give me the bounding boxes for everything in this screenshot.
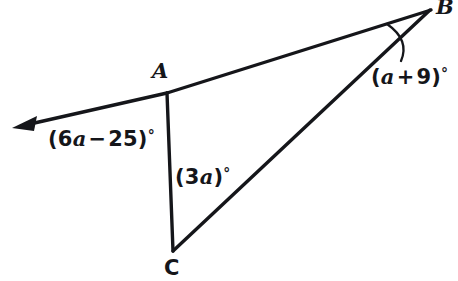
angle-b-variable: a bbox=[381, 64, 395, 89]
degree-symbol-icon: ° bbox=[441, 65, 448, 81]
degree-symbol-icon: ° bbox=[148, 127, 155, 143]
angle-a-variable: a bbox=[73, 126, 87, 151]
angle-label-at-A-interior: (3a)° bbox=[175, 166, 230, 188]
angle-a-coefficient: 6 bbox=[58, 127, 73, 151]
angle-a-constant: 25 bbox=[108, 127, 138, 151]
angle-a-open: ( bbox=[48, 127, 58, 151]
angle-label-at-B: (a+9)° bbox=[371, 66, 448, 88]
arrowhead-icon bbox=[12, 116, 37, 131]
segment-AC bbox=[167, 93, 173, 251]
angle-c-coefficient: 3 bbox=[185, 165, 200, 189]
angle-label-exterior-at-A: (6a−25)° bbox=[48, 128, 155, 150]
vertex-label-C: C bbox=[164, 258, 179, 279]
vertex-label-B: B bbox=[436, 0, 454, 17]
angle-a-operator: − bbox=[86, 127, 108, 151]
angle-c-open: ( bbox=[175, 165, 185, 189]
angle-b-operator: + bbox=[395, 65, 417, 89]
segment-CB bbox=[173, 10, 430, 251]
geometry-diagram: A B C (6a−25)° (3a)° (a+9)° bbox=[0, 0, 458, 281]
angle-b-constant: 9 bbox=[416, 65, 431, 89]
angle-a-close: ) bbox=[138, 127, 148, 151]
angle-b-close: ) bbox=[431, 65, 441, 89]
degree-symbol-icon: ° bbox=[223, 165, 230, 181]
angle-c-variable: a bbox=[200, 164, 214, 189]
ray-from-A bbox=[30, 93, 167, 124]
vertex-label-A: A bbox=[152, 60, 168, 81]
angle-c-close: ) bbox=[213, 165, 223, 189]
angle-b-open: ( bbox=[371, 65, 381, 89]
